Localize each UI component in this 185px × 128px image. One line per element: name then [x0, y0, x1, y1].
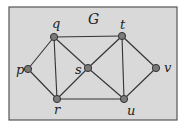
vertex-dot: [152, 64, 159, 71]
node-t: t: [118, 17, 126, 40]
vertex-dot: [50, 33, 57, 40]
vertex-dot: [24, 65, 31, 72]
vertex-label: u: [127, 103, 135, 118]
graph-diagram: G pqrstuv: [0, 0, 185, 128]
vertex-dot: [84, 64, 91, 71]
vertex-label: v: [164, 60, 172, 75]
graph-canvas: G pqrstuv: [0, 0, 185, 128]
vertex-label: s: [75, 62, 82, 77]
vertex-label: p: [16, 62, 25, 77]
graph-title: G: [88, 11, 99, 27]
vertex-dot: [118, 32, 125, 39]
vertex-dot: [120, 95, 127, 102]
node-r: r: [53, 95, 61, 117]
vertex-label: q: [52, 16, 60, 31]
vertex-label: t: [120, 17, 126, 32]
vertex-label: r: [54, 102, 61, 117]
